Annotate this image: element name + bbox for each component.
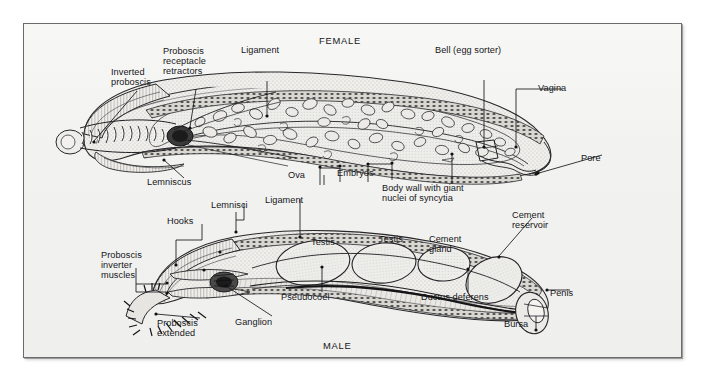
panel-title-male: MALE — [323, 340, 352, 351]
label-bell-egg-sorter: Bell (egg sorter) — [435, 45, 501, 55]
label-ligament-male: Ligament — [265, 195, 303, 205]
label-bursa: Bursa — [504, 319, 528, 329]
label-ligament-female: Ligament — [241, 45, 279, 55]
panel-title-female: FEMALE — [319, 35, 361, 46]
label-ganglion: Ganglion — [235, 317, 272, 327]
label-proboscis-receptacle-retractors: Proboscis receptacle retractors — [163, 46, 206, 77]
label-penis: Penis — [550, 288, 573, 298]
label-lemnisci: Lemnisci — [211, 200, 248, 210]
figure-root: Inverted proboscisProboscis receptacle r… — [0, 0, 711, 384]
label-ductus-deferens: Ductus deferens — [421, 292, 489, 302]
illustration-plate: Inverted proboscisProboscis receptacle r… — [23, 23, 682, 358]
label-vagina: Vagina — [538, 83, 566, 93]
label-testis-1: Testis — [311, 237, 335, 247]
label-cement-gland: Cement gland — [429, 234, 461, 254]
label-body-wall-giant-nuclei: Body wall with giant nuclei of syncytia — [382, 183, 464, 203]
label-cement-reservoir: Cement reservoir — [512, 210, 548, 230]
label-pseudocoel: Pseudocoel — [281, 292, 330, 302]
female-worm — [56, 72, 551, 184]
label-hooks: Hooks — [167, 216, 193, 226]
label-proboscis-extended: Proboscis extended — [157, 318, 198, 338]
label-testis-2: Testis — [379, 234, 403, 244]
label-ova: Ova — [288, 170, 305, 180]
label-embryos: Embryos — [337, 168, 374, 178]
label-pore: Pore — [581, 153, 601, 163]
label-inverted-proboscis: Inverted proboscis — [111, 67, 151, 87]
label-lemniscus: Lemniscus — [147, 177, 191, 187]
label-proboscis-inverter-muscles: Proboscis inverter muscles — [101, 250, 142, 281]
